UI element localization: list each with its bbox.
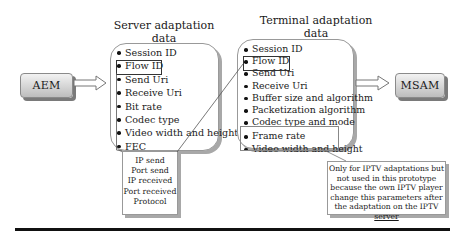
bottom-rule (15, 228, 450, 231)
arrow-terminal-to-msam (356, 76, 389, 90)
connector-overlay (0, 0, 464, 232)
arrow-aem-to-server (74, 76, 106, 90)
iptv-group-connector (322, 149, 346, 161)
terminal-flow-id-connector (177, 64, 243, 152)
